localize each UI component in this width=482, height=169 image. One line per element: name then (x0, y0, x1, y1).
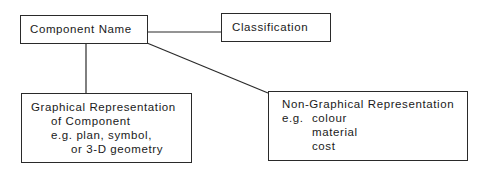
classification-box: Classification (221, 13, 331, 42)
non-graphical-title: Non-Graphical Representation (282, 97, 454, 111)
component-name-box: Component Name (20, 15, 148, 44)
non-graphical-representation-box: Non-Graphical Representation e.g. colour… (268, 91, 468, 161)
graphical-line-2: of Component (51, 114, 130, 128)
classification-label: Classification (232, 20, 308, 34)
graphical-line-1: Graphical Representation (31, 100, 176, 114)
edge-component-nongraphical (147, 43, 268, 93)
non-graphical-eg: e.g. (282, 111, 304, 125)
graphical-line-4: or 3-D geometry (71, 142, 163, 156)
non-graphical-item-cost: cost (312, 139, 336, 153)
non-graphical-item-colour: colour (312, 111, 347, 125)
graphical-representation-box: Graphical Representation of Component e.… (21, 93, 192, 163)
non-graphical-item-material: material (312, 125, 358, 139)
component-name-label: Component Name (30, 22, 132, 36)
graphical-line-3: e.g. plan, symbol, (51, 128, 152, 142)
